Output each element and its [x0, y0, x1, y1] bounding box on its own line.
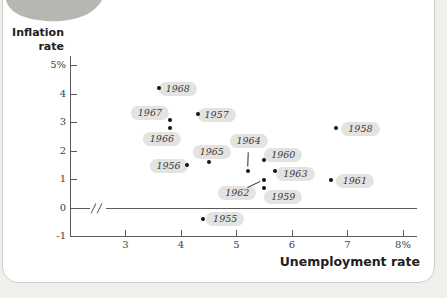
x-tick-label-6: 6: [275, 239, 309, 250]
y-tick-1: [70, 179, 77, 180]
x-axis-title: Unemployment rate: [240, 254, 420, 269]
data-point-1965: [207, 160, 211, 164]
zero-line: [70, 208, 417, 209]
data-point-label-1963: 1963: [276, 167, 314, 181]
data-point-1966: [168, 126, 172, 130]
data-point-1956: [185, 163, 189, 167]
data-point-1955: [201, 217, 205, 221]
data-point-label-1961: 1961: [336, 174, 374, 188]
y-tick-label-1: 1: [26, 173, 66, 184]
x-tick-4: [181, 230, 182, 236]
y-tick-0: [70, 208, 77, 209]
y-tick-4: [70, 94, 77, 95]
data-point-label-1966: 1966: [143, 132, 181, 146]
x-axis-line: [70, 236, 417, 237]
data-point-label-1964: 1964: [230, 134, 268, 148]
x-tick-label-5: 5: [220, 239, 254, 250]
data-point-label-1956: 1956: [149, 159, 187, 173]
data-point-1957: [196, 112, 200, 116]
y-axis-line: [70, 56, 71, 237]
y-tick-2: [70, 151, 77, 152]
data-point-label-1962: 1962: [218, 186, 256, 200]
y-tick-3: [70, 122, 77, 123]
x-tick-7: [347, 230, 348, 236]
x-tick-label-7: 7: [331, 239, 365, 250]
data-point-label-1960: 1960: [264, 148, 302, 162]
y-tick-label-5%: 5%: [26, 59, 66, 70]
data-point-label-1968: 1968: [159, 82, 197, 96]
data-point-label-1959: 1959: [264, 190, 302, 204]
phillips-curve-chart: Inflation rate 5%43210-1345678%195519561…: [0, 0, 447, 298]
data-point-label-1958: 1958: [341, 122, 379, 136]
x-tick-8%: [403, 230, 404, 236]
data-point-label-1955: 1955: [206, 212, 244, 226]
y-tick-label-3: 3: [26, 116, 66, 127]
data-point-label-1957: 1957: [198, 108, 236, 122]
data-point-1960: [262, 158, 266, 162]
y-axis-title: Inflation rate: [8, 26, 64, 53]
data-point-1961: [329, 178, 333, 182]
data-point-1964: [246, 169, 250, 173]
y-tick-label-4: 4: [26, 88, 66, 99]
y-tick-label--1: -1: [26, 230, 66, 241]
data-point-label-1965: 1965: [193, 145, 231, 159]
x-tick-3: [125, 230, 126, 236]
data-point-1958: [334, 126, 338, 130]
y-tick--1: [70, 236, 77, 237]
data-point-1962: [262, 178, 266, 182]
y-axis-title-line1: Inflation: [8, 26, 64, 40]
y-axis-title-line2: rate: [8, 40, 64, 54]
x-tick-label-8%: 8%: [386, 239, 420, 250]
x-tick-label-3: 3: [109, 239, 143, 250]
y-tick-label-2: 2: [26, 145, 66, 156]
x-tick-5: [236, 230, 237, 236]
data-point-1959: [262, 186, 266, 190]
y-tick-5%: [70, 65, 77, 66]
data-point-1967: [168, 118, 172, 122]
y-tick-label-0: 0: [26, 202, 66, 213]
x-tick-label-4: 4: [164, 239, 198, 250]
figure-stage: Inflation rate 5%43210-1345678%195519561…: [0, 0, 447, 298]
data-point-label-1967: 1967: [131, 106, 169, 120]
x-tick-6: [292, 230, 293, 236]
